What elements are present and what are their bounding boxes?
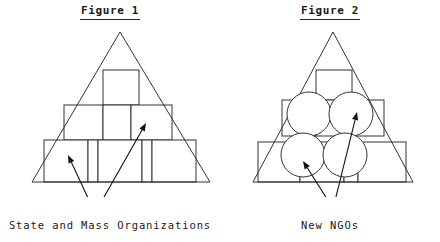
figure-2-title-text: Figure 2 [300, 4, 360, 20]
figure-1-diagram [0, 22, 220, 197]
figure-1-title-text: Figure 1 [80, 4, 140, 20]
figure-1-top-box [103, 70, 139, 105]
figure-1-bottom-box-3 [98, 140, 142, 182]
figure-2-circle-lower-left [281, 133, 325, 177]
figure-1-bottom-box-5 [152, 140, 196, 182]
figure-1-bottom-box-2 [88, 140, 98, 182]
figure-1-title: Figure 1 [0, 4, 220, 20]
figure-2-circle-upper-right [329, 92, 373, 136]
figure-1-bottom-box-1 [44, 140, 88, 182]
figures-root: Figure 1 State and Mass Organizations Fi… [0, 0, 440, 242]
figure-2-circle-upper-left [287, 92, 331, 136]
figure-2-caption: New NGOs [220, 219, 440, 232]
figure-1-boxes [44, 70, 196, 182]
figure-panel-2: Figure 2 New NGOs [220, 0, 440, 242]
figure-1-bottom-box-4 [142, 140, 152, 182]
figure-1-middle-box-left [64, 105, 103, 140]
figure-1-middle-box-right [131, 105, 172, 140]
figure-2-circle-lower-right [323, 133, 367, 177]
figure-1-middle-box-center [103, 105, 131, 140]
figure-2-diagram [220, 22, 440, 197]
figure-1-caption: State and Mass Organizations [0, 219, 220, 232]
figure-panel-1: Figure 1 State and Mass Organizations [0, 0, 220, 242]
figure-2-title: Figure 2 [220, 4, 440, 20]
